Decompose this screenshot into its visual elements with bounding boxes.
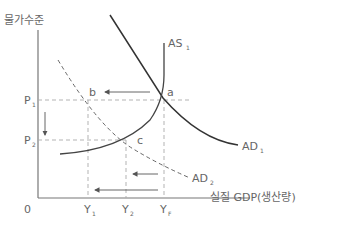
ad2-label: AD 2: [192, 172, 214, 186]
svg-text:Y: Y: [121, 203, 129, 216]
point-c-label: c: [137, 134, 143, 147]
as1-label: AS 1: [168, 37, 190, 51]
y-axis-label: 물가수준: [4, 14, 44, 27]
p1-label: P 1: [24, 94, 36, 108]
ad2-curve: [58, 60, 190, 178]
yf-label: Y F: [159, 203, 172, 217]
svg-text:1: 1: [92, 210, 96, 217]
svg-text:P: P: [24, 134, 31, 147]
y2-label: Y 2: [121, 203, 134, 217]
x-axis-label: 실질 GDP(생산량): [210, 191, 296, 204]
y1-label: Y 1: [83, 203, 96, 217]
point-a-label: a: [167, 86, 174, 99]
svg-text:2: 2: [210, 179, 214, 186]
svg-text:P: P: [24, 94, 31, 107]
svg-text:AD: AD: [192, 172, 208, 185]
ad1-curve: [110, 15, 238, 145]
ad1-label: AD 1: [242, 140, 264, 154]
origin-label: 0: [24, 203, 31, 216]
svg-text:AS: AS: [168, 37, 183, 50]
svg-text:Y: Y: [83, 203, 91, 216]
svg-text:2: 2: [130, 210, 134, 217]
svg-text:1: 1: [260, 147, 264, 154]
ad-as-diagram: 물가수준 실질 GDP(생산량) 0 P 1 P 2 Y 1 Y 2 Y F A…: [0, 0, 352, 229]
svg-text:F: F: [168, 210, 172, 217]
point-b-label: b: [89, 86, 96, 99]
svg-text:Y: Y: [159, 203, 167, 216]
p2-label: P 2: [24, 134, 36, 148]
svg-text:1: 1: [186, 44, 190, 51]
svg-text:2: 2: [32, 141, 36, 148]
svg-text:1: 1: [32, 101, 36, 108]
svg-text:AD: AD: [242, 140, 258, 153]
as1-curve: [60, 43, 164, 154]
guide-lines: [38, 100, 190, 198]
